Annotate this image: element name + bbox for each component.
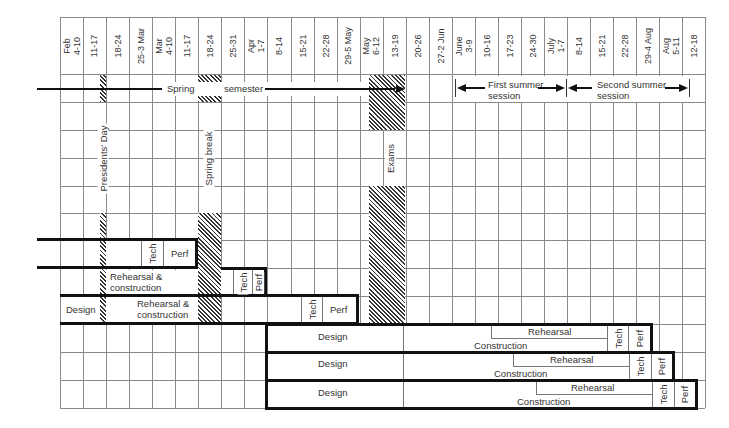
production-6-design: Design (318, 387, 348, 398)
spring-break-label: Spring break (199, 104, 219, 212)
production-6-perf: Perf (675, 382, 695, 407)
production-6-rehearsal-bracket-h (536, 394, 652, 395)
second-summer-right-line (665, 87, 679, 89)
spring-arrow-line-right (265, 88, 395, 90)
production-1-end-line (195, 238, 198, 269)
production-4-perf: Perf (629, 326, 650, 351)
week-column-header: 18-24 (106, 17, 129, 74)
production-5-perf: Perf (652, 354, 672, 379)
production-4-rehearsal: Rehearsal (528, 326, 571, 337)
production-6-rehearsal: Rehearsal (571, 382, 614, 393)
production-6-construction: Construction (517, 396, 570, 407)
week-column-header: 24-30 (521, 17, 544, 74)
production-5-rehearsal: Rehearsal (550, 354, 593, 365)
first-summer-left-line (465, 87, 485, 89)
production-2-phase: Rehearsal & construction (110, 271, 162, 293)
exams-hatch-bottom (369, 186, 405, 323)
first-summer-start-tick (455, 79, 456, 97)
production-5-tech: Tech (630, 354, 651, 379)
week-column-header: July 1-7 (544, 17, 567, 74)
semester-label: semester (224, 83, 263, 94)
week-column-header: Aug 5-11 (659, 17, 682, 74)
first-summer-right-arrowhead (556, 84, 565, 92)
second-summer-end-tick (689, 79, 690, 97)
first-summer-right-line (538, 87, 556, 89)
production-1-bottom-line (37, 266, 198, 269)
exams-hatch-top (369, 75, 405, 130)
week-column-header: 17-23 (498, 17, 521, 74)
week-column-header: 10-16 (475, 17, 498, 74)
week-column-header: 11-17 (83, 17, 106, 74)
week-column-header: 8-14 (567, 17, 590, 74)
second-summer-label: Second summer session (597, 79, 666, 101)
second-summer-left-line (576, 87, 592, 89)
production-3-design: Design (66, 304, 96, 315)
production-2-tech: Tech (234, 270, 252, 294)
production-5-design-divider (403, 354, 404, 379)
exams-label: Exams (381, 131, 401, 185)
production-5-design: Design (318, 358, 348, 369)
week-column-header: 25-31 (221, 17, 244, 74)
production-5-construction: Construction (494, 368, 547, 379)
second-summer-right-arrowhead (679, 84, 688, 92)
week-column-header: 15-21 (590, 17, 613, 74)
week-column-header: 13-19 (383, 17, 406, 74)
week-column-header: May 6-12 (360, 17, 383, 74)
production-4-design-divider (403, 326, 404, 351)
week-column-header: 29-5 May (337, 17, 360, 74)
week-column-header: 11-17 (175, 17, 198, 74)
week-column-header: 22-28 (613, 17, 636, 74)
week-column-header: 29-4 Aug (636, 17, 659, 74)
week-column-header: Feb 4-10 (60, 17, 83, 74)
week-column-header: 25-3 Mar (129, 17, 152, 74)
week-column-header: Mar 4-10 (152, 17, 175, 74)
production-3-tech: Tech (302, 297, 322, 322)
spring-arrowhead (396, 85, 405, 93)
week-column-header: 27-2 Jun (429, 17, 452, 74)
production-4-tech: Tech (608, 326, 628, 351)
presidents-day-label: Presidents' Day (93, 104, 113, 212)
week-column-header: 20-26 (406, 17, 429, 74)
week-column-header: 15-21 (291, 17, 314, 74)
production-4-rehearsal-bracket-h (491, 338, 607, 339)
production-schedule-chart: Feb 4-1011-1718-2425-3 MarMar 4-1011-171… (0, 0, 729, 428)
production-2-end-line (264, 267, 267, 297)
grid-vline (705, 17, 706, 408)
week-column-header: 12-18 (682, 17, 705, 74)
production-4-design: Design (318, 331, 348, 342)
week-column-header: 22-28 (314, 17, 337, 74)
production-1-tech: Tech (142, 241, 163, 266)
production-6-tech: Tech (653, 382, 674, 407)
production-3-tech-divider-right (322, 297, 323, 322)
production-3-end-line (356, 294, 359, 325)
spring-break-hatch-bottom (198, 213, 221, 323)
week-column-header: Apr 1-7 (244, 17, 267, 74)
production-1-perf: Perf (171, 248, 188, 259)
first-summer-label: First summer session (488, 79, 543, 101)
session-divider-tick (566, 79, 567, 97)
production-2-perf: Perf (253, 270, 264, 294)
production-3-perf: Perf (330, 304, 347, 315)
production-5-rehearsal-bracket-h (513, 366, 629, 367)
production-6-design-divider (403, 382, 404, 407)
production-4-construction: Construction (474, 340, 527, 351)
week-column-header: June 3-9 (452, 17, 475, 74)
grid-hline (60, 17, 705, 18)
week-column-header: 8-14 (267, 17, 290, 74)
production-1-tech-divider-right (163, 241, 164, 266)
spring-arrow-line-left (37, 88, 162, 90)
production-3-phase: Rehearsal & construction (137, 298, 189, 320)
spring-label: Spring (167, 83, 194, 94)
week-column-header: 18-24 (198, 17, 221, 74)
